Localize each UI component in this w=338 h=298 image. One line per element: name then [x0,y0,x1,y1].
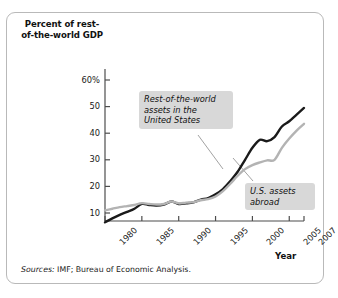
callout-us-assets-abroad: U.S. assets abroad [245,183,315,210]
chart-figure: Percent of rest-of-the-world GDP Year 60… [6,12,324,284]
source-note: Sources: IMF; Bureau of Economic Analysi… [21,265,191,274]
plot-area [7,13,325,285]
source-note-lead: Sources: [21,265,55,274]
callout-rest-of-world-assets: Rest-of-the-world assets in the United S… [139,91,233,129]
source-note-text: IMF; Bureau of Economic Analysis. [55,265,191,274]
